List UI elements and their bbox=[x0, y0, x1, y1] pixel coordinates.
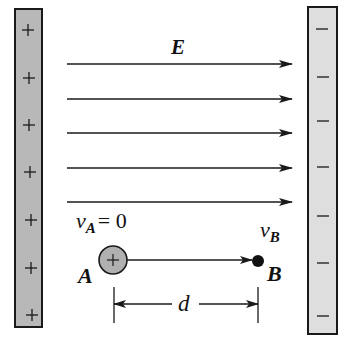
point-a-label: A bbox=[78, 265, 93, 287]
velocity-symbol: v bbox=[260, 217, 270, 242]
velocity-b-label: vB bbox=[260, 219, 280, 241]
negative-plate bbox=[308, 7, 337, 334]
charge-a bbox=[99, 246, 127, 274]
velocity-a-value: = 0 bbox=[98, 208, 127, 233]
field-arrows bbox=[67, 64, 292, 202]
velocity-subscript: B bbox=[270, 229, 280, 245]
velocity-subscript: A bbox=[86, 220, 96, 236]
point-b-dot bbox=[252, 255, 264, 267]
velocity-a-label: vA= 0 bbox=[76, 210, 127, 232]
velocity-symbol: v bbox=[76, 208, 86, 233]
distance-label-d: d bbox=[178, 292, 190, 315]
field-label-e: E bbox=[171, 37, 185, 58]
positive-plate bbox=[15, 9, 42, 327]
point-b-label: B bbox=[267, 263, 282, 285]
